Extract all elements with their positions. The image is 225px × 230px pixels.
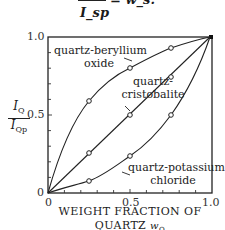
annotation-kcl-line2: chloride [128, 174, 218, 187]
x-axis-label-line1: WEIGHT FRACTION OF [50, 205, 210, 219]
annotation-kcl-line1: quartz-potassium [128, 161, 218, 174]
y-label-num-sub: Q [18, 106, 25, 115]
annotation-cristobalite: quartz- cristobalite [118, 75, 188, 101]
annotation-cristobalite-line2: cristobalite [118, 88, 188, 101]
annotation-cristobalite-line1: quartz- [118, 75, 188, 88]
annotation-potassium-chloride: quartz-potassium chloride [128, 161, 218, 187]
annotation-beryllium-line1: quartz-beryllium [54, 44, 144, 57]
x-axis-var: w [150, 220, 159, 230]
x-axis-label: WEIGHT FRACTION OF QUARTZ wQ [50, 205, 210, 230]
y-label-den-sub: Qp [16, 126, 28, 135]
annotation-beryllium-oxide: quartz-beryllium oxide [54, 44, 144, 70]
y-tick-1: 1.0 [27, 30, 45, 43]
x-axis-label-quartz: QUARTZ [95, 219, 146, 230]
y-tick-0: 0 [37, 186, 44, 199]
annotation-beryllium-line2: oxide [54, 57, 144, 70]
x-axis-label-line2: QUARTZ wQ [50, 219, 210, 230]
x-axis-var-sub: Q [159, 226, 165, 230]
y-axis-label: IQ IQp [8, 100, 30, 137]
